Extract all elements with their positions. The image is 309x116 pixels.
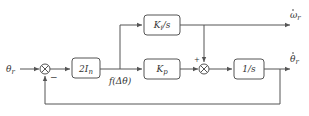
control-block-diagram: θr − 2In Ki/s Kp 1/s f(Δθ) + ωr θr [0, 0, 309, 116]
block-integrator-label: 1/s [242, 64, 256, 74]
dot-accent [292, 9, 294, 11]
summing-junction-1 [40, 64, 50, 74]
block-Kp-label: Kp [155, 64, 168, 76]
theta-output-label: θr [290, 54, 299, 66]
summing-junction-2 [199, 64, 209, 74]
signal-label: f(Δθ) [108, 76, 132, 86]
minus-sign: − [50, 72, 58, 82]
plus-sign: + [194, 56, 200, 64]
input-label: θr [6, 64, 15, 76]
dot-accent [292, 52, 294, 54]
block-Ki-s-label: Ki/s [153, 20, 171, 32]
block-2In-label: 2In [78, 64, 93, 76]
omega-output-label: ωr [290, 10, 301, 22]
